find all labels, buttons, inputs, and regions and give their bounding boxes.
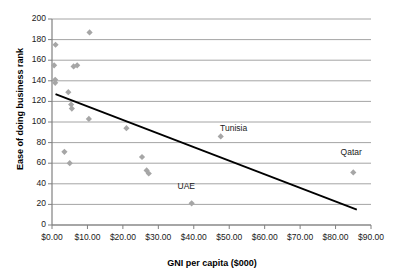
data-point <box>52 42 58 48</box>
x-tick-label: $90.00 <box>349 232 393 242</box>
data-point <box>139 154 145 160</box>
data-point <box>218 133 224 139</box>
scatter-chart: 020406080100120140160180200 $0.00$10.00$… <box>0 0 394 276</box>
point-label-uae: UAE <box>178 181 195 191</box>
data-point <box>65 89 71 95</box>
y-tick-label: 40 <box>20 178 46 188</box>
gridlines <box>52 19 371 225</box>
y-tick-label: 20 <box>20 198 46 208</box>
y-tick-label: 200 <box>20 13 46 23</box>
data-point <box>350 169 356 175</box>
point-label-qatar: Qatar <box>341 147 362 157</box>
data-markers <box>51 29 356 206</box>
data-point <box>69 106 75 112</box>
data-point <box>61 149 67 155</box>
data-point <box>86 29 92 35</box>
x-tick-marks <box>52 225 371 229</box>
trend-line-segment <box>56 94 357 209</box>
y-tick-label: 0 <box>20 219 46 229</box>
trend-line <box>56 94 357 209</box>
y-axis-title: Ease of doing business rank <box>15 39 25 179</box>
data-point <box>86 116 92 122</box>
data-point <box>123 125 129 131</box>
data-point <box>67 160 73 166</box>
data-point <box>189 200 195 206</box>
point-label-tunisia: Tunisia <box>220 123 247 133</box>
x-axis-title: GNI per capita ($000) <box>112 258 312 268</box>
